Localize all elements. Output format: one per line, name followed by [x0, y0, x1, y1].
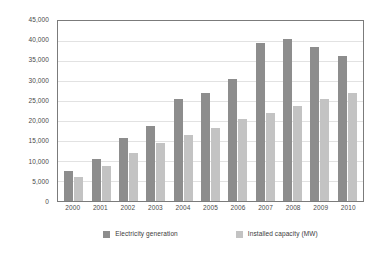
y-axis: 45,00040,00035,00030,00025,00020,00015,0…	[0, 20, 53, 202]
bar-group	[169, 21, 196, 201]
chart-legend: Electricity generationInstalled capacity…	[57, 231, 364, 238]
x-tick-label: 2008	[279, 205, 307, 219]
bar	[338, 56, 347, 201]
x-tick-label: 2010	[334, 205, 362, 219]
bar-group	[142, 21, 169, 201]
legend-label: Installed capacity (MW)	[248, 231, 318, 238]
bar	[283, 39, 292, 201]
legend-entry[interactable]: Electricity generation	[103, 231, 178, 238]
bar	[174, 99, 183, 201]
x-tick-label: 2005	[197, 205, 225, 219]
y-tick-label: 10,000	[29, 158, 49, 165]
bar-group	[334, 21, 361, 201]
bar	[320, 99, 329, 201]
bar	[266, 113, 275, 201]
bar	[184, 135, 193, 201]
bar	[146, 126, 155, 201]
bar	[293, 106, 302, 201]
bar-group	[115, 21, 142, 201]
bar	[310, 47, 319, 201]
x-tick-label: 2002	[114, 205, 142, 219]
legend-swatch-icon	[236, 231, 243, 238]
bar	[211, 128, 220, 201]
bar	[129, 153, 138, 201]
x-tick-label: 2004	[169, 205, 197, 219]
y-tick-label: 45,000	[29, 17, 49, 24]
legend-entry[interactable]: Installed capacity (MW)	[236, 231, 318, 238]
y-tick-label: 20,000	[29, 118, 49, 125]
bar-chart-figure: 45,00040,00035,00030,00025,00020,00015,0…	[0, 0, 382, 257]
bar	[119, 138, 128, 201]
bar-group	[224, 21, 251, 201]
y-tick-label: 0	[45, 199, 49, 206]
x-tick-label: 2003	[142, 205, 170, 219]
bar	[92, 159, 101, 201]
bar	[256, 43, 265, 201]
bar	[64, 171, 73, 201]
x-axis: 2000200120022003200420052006200720082009…	[57, 205, 364, 219]
x-tick-label: 2007	[252, 205, 280, 219]
bar	[238, 119, 247, 201]
bar-group	[60, 21, 87, 201]
bars-layer	[58, 21, 363, 201]
bar-group	[197, 21, 224, 201]
y-tick-label: 5,000	[32, 179, 49, 186]
bar	[228, 79, 237, 201]
bar	[156, 143, 165, 201]
bar	[102, 166, 111, 201]
y-tick-label: 15,000	[29, 138, 49, 145]
bar	[74, 177, 83, 201]
y-tick-label: 25,000	[29, 98, 49, 105]
bar-group	[279, 21, 306, 201]
x-tick-label: 2001	[87, 205, 115, 219]
bar-group	[87, 21, 114, 201]
legend-swatch-icon	[103, 231, 110, 238]
y-tick-label: 35,000	[29, 57, 49, 64]
y-tick-label: 40,000	[29, 37, 49, 44]
y-tick-label: 30,000	[29, 77, 49, 84]
bar	[201, 93, 210, 201]
bar-group	[252, 21, 279, 201]
legend-label: Electricity generation	[115, 231, 178, 238]
bar-group	[306, 21, 333, 201]
x-tick-label: 2006	[224, 205, 252, 219]
x-tick-label: 2000	[59, 205, 87, 219]
bar	[348, 93, 357, 201]
x-tick-label: 2009	[307, 205, 335, 219]
plot-area	[57, 20, 364, 202]
